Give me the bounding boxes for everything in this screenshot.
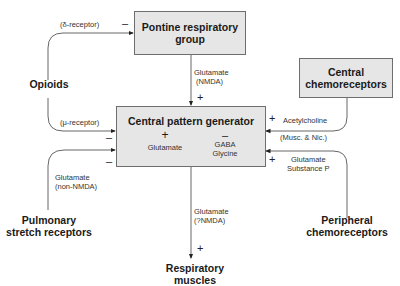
cpg-excitatory-sign: + [145,129,185,141]
cpg-inhibitory-label1: GABA [195,140,255,149]
muscles-line2: muscles [155,274,235,286]
acetylcholine-label: Acetylcholine [283,116,327,125]
pulmonary-line1: Pulmonary [6,214,92,226]
pontine-respiratory-group-box: Pontine respiratory group [134,11,246,55]
peripheral-line2: chemoreceptors [300,226,394,238]
cpg-to-muscles-sign: + [197,243,203,254]
pontine-label-line2: group [135,33,245,45]
pontine-to-cpg-label2: (NMDA) [196,77,223,86]
mu-receptor-sign: – [106,132,112,143]
peripheral-line1: Peripheral [300,214,394,226]
central-chemo-sign: + [269,113,275,124]
cpg-excitatory-label: Glutamate [135,142,195,154]
pontine-to-cpg-sign: + [197,92,203,103]
pulmonary-glutamate-label1: Glutamate [55,173,90,182]
central-chemoreceptors-box: Central chemoreceptors [299,58,393,98]
peripheral-sign: + [269,154,275,165]
muscles-line1: Respiratory [155,262,235,274]
cpg-title: Central pattern generator [117,115,265,127]
cpg-to-muscles-label2: (?NMDA) [194,216,225,225]
central-chemo-label-line1: Central [300,66,392,78]
pontine-to-cpg-label1: Glutamate [194,68,229,77]
respiratory-muscles-label: Respiratory muscles [155,262,235,286]
pulmonary-sign: – [106,156,112,167]
delta-receptor-sign: – [122,18,128,29]
pulmonary-stretch-receptors-label: Pulmonary stretch receptors [6,214,92,238]
opioids-label: Opioids [28,78,70,90]
pulmonary-line2: stretch receptors [6,226,92,238]
delta-receptor-label: (δ-receptor) [60,20,99,29]
peripheral-chemoreceptors-label: Peripheral chemoreceptors [300,214,394,238]
substance-p-label: Substance P [287,164,330,173]
pulmonary-glutamate-label2: (non-NMDA) [55,182,97,191]
central-chemo-label-line2: chemoreceptors [300,78,392,90]
peripheral-glutamate-label1: Glutamate [291,155,326,164]
cpg-inhibitory-label2: Glycine [195,149,255,158]
musc-nic-label: (Musc. & Nic.) [280,133,327,142]
cpg-to-muscles-label1: Glutamate [194,207,229,216]
central-pattern-generator-box: Central pattern generator + Glutamate – … [116,106,266,167]
mu-receptor-label: (μ-receptor) [60,118,99,127]
pontine-label-line1: Pontine respiratory [135,21,245,33]
